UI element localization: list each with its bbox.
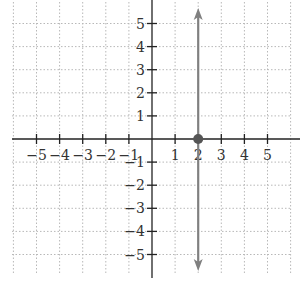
x-tick-label: 1	[171, 147, 180, 163]
y-tick-label: 3	[136, 62, 145, 78]
y-tick-label: −1	[124, 154, 145, 170]
point-2-0	[193, 134, 203, 144]
y-tick-label: −2	[124, 177, 145, 193]
y-tick-label: 1	[136, 108, 145, 124]
y-tick-label: 5	[136, 16, 145, 32]
x-tick-label: −5	[26, 147, 47, 163]
y-tick-label: −5	[124, 247, 145, 263]
x-tick-label: −2	[95, 147, 116, 163]
coordinate-plane: −5−4−3−2−112345−5−4−3−2−112345	[0, 0, 303, 295]
x-tick-label: −3	[72, 147, 93, 163]
y-tick-label: 4	[136, 39, 145, 55]
x-tick-label: −4	[49, 147, 70, 163]
x-tick-label: 4	[240, 147, 249, 163]
x-tick-label: 5	[263, 147, 272, 163]
x-tick-label: 3	[217, 147, 226, 163]
axes	[12, 0, 300, 278]
y-tick-label: −3	[124, 200, 145, 216]
y-tick-label: −4	[124, 223, 145, 239]
y-tick-label: 2	[136, 85, 145, 101]
intercept-point	[193, 134, 203, 144]
